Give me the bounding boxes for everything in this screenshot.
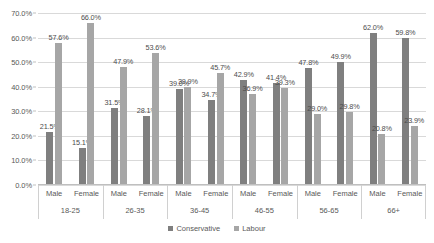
bar-value-label: 42.9% [234, 70, 254, 79]
gender-tick-label: Female [329, 185, 361, 202]
axis-group-separator [297, 202, 298, 219]
chart-legend: ConservativeLabour [0, 224, 434, 233]
bar-conservative-46-55-male [240, 80, 247, 185]
bar-labour-46-55-female [281, 88, 288, 185]
gender-tick-label: Female [394, 185, 426, 202]
y-tick-mark [33, 13, 36, 14]
legend-label: Labour [242, 224, 265, 233]
axis-group-separator [167, 202, 168, 219]
bar-labour-66-female [411, 126, 418, 185]
y-tick-label: 10.0% [11, 156, 32, 165]
bar-labour-66-male [378, 134, 385, 185]
bar-labour-56-65-male [314, 114, 321, 185]
y-tick-mark [33, 37, 36, 38]
bar-conservative-56-65-female [337, 62, 344, 185]
bar-conservative-46-55-female [273, 83, 280, 185]
y-tick-label: 40.0% [11, 82, 32, 91]
bar-labour-36-45-male [184, 87, 191, 185]
gender-tick-label: Female [200, 185, 232, 202]
bar-labour-36-45-female [217, 73, 224, 185]
gender-tick-label: Male [297, 185, 329, 202]
gender-tick-label: Female [70, 185, 102, 202]
y-axis: 0.0%10.0%20.0%30.0%40.0%50.0%60.0%70.0% [0, 13, 36, 185]
bar-conservative-18-25-male [46, 132, 53, 185]
axis-group-separator [232, 185, 233, 202]
grouped-bar-chart: 0.0%10.0%20.0%30.0%40.0%50.0%60.0%70.0% … [0, 0, 434, 243]
bar-value-label: 62.0% [363, 23, 383, 32]
bar-conservative-66-male [370, 33, 377, 185]
bar-labour-18-25-male [55, 43, 62, 185]
bar-labour-56-65-female [346, 112, 353, 185]
y-tick-mark [33, 62, 36, 63]
bar-labour-26-35-female [152, 53, 159, 185]
y-tick-label: 30.0% [11, 107, 32, 116]
gender-tick-label: Male [167, 185, 199, 202]
y-tick-mark [33, 185, 36, 186]
bar-value-label: 53.6% [146, 43, 166, 52]
axis-group-separator [297, 185, 298, 202]
bar-value-label: 59.8% [395, 28, 415, 37]
bar-conservative-36-45-female [208, 100, 215, 185]
bar-value-label: 57.6% [49, 33, 69, 42]
bar-value-label: 20.8% [372, 124, 392, 133]
bar-value-label: 39.3% [275, 78, 295, 87]
age-group-tick-label: 36-45 [167, 202, 232, 219]
bar-value-label: 47.9% [113, 57, 133, 66]
y-tick-mark [33, 86, 36, 87]
bar-value-label: 29.0% [307, 104, 327, 113]
legend-item-labour[interactable]: Labour [234, 224, 265, 233]
age-group-tick-label: 46-55 [232, 202, 297, 219]
axis-group-separator [103, 185, 104, 202]
legend-item-conservative[interactable]: Conservative [168, 224, 220, 233]
bar-conservative-26-35-male [111, 108, 118, 185]
y-tick-label: 50.0% [11, 58, 32, 67]
axis-group-separator [38, 202, 39, 219]
bar-labour-46-55-male [249, 94, 256, 185]
age-group-tick-label: 66+ [361, 202, 426, 219]
category-axis: MaleFemaleMaleFemaleMaleFemaleMaleFemale… [38, 185, 426, 219]
legend-label: Conservative [176, 224, 220, 233]
axis-group-separator [232, 202, 233, 219]
gender-tick-label: Male [361, 185, 393, 202]
gender-tick-label: Male [103, 185, 135, 202]
bar-conservative-36-45-male [176, 89, 183, 185]
legend-swatch-icon [168, 226, 173, 231]
plot-area: 21.5%57.6%15.1%66.0%31.5%47.9%28.1%53.6%… [38, 13, 426, 185]
bar-value-label: 47.8% [298, 58, 318, 67]
axis-group-separator [425, 202, 426, 219]
bar-value-label: 29.8% [340, 102, 360, 111]
bar-value-label: 45.7% [210, 63, 230, 72]
bar-value-label: 66.0% [81, 13, 101, 22]
age-group-tick-label: 18-25 [38, 202, 103, 219]
gender-tick-label: Male [38, 185, 70, 202]
axis-group-separator [167, 185, 168, 202]
y-tick-label: 70.0% [11, 9, 32, 18]
bar-value-label: 36.9% [243, 84, 263, 93]
axis-group-separator [425, 185, 426, 202]
bar-conservative-18-25-female [79, 148, 86, 185]
age-group-label-row: 18-2526-3536-4546-5556-6566+ [38, 202, 426, 219]
bar-conservative-26-35-female [143, 116, 150, 185]
y-tick-mark [33, 135, 36, 136]
axis-group-separator [38, 185, 39, 202]
bar-value-label: 39.9% [178, 77, 198, 86]
bar-conservative-56-65-male [305, 68, 312, 185]
gender-tick-label: Male [232, 185, 264, 202]
y-tick-label: 20.0% [11, 131, 32, 140]
y-tick-label: 60.0% [11, 33, 32, 42]
bars-layer: 21.5%57.6%15.1%66.0%31.5%47.9%28.1%53.6%… [38, 13, 426, 185]
y-tick-label: 0.0% [15, 181, 32, 190]
axis-group-separator [361, 185, 362, 202]
bar-conservative-66-female [402, 38, 409, 185]
gender-tick-label: Female [264, 185, 296, 202]
age-group-tick-label: 26-35 [103, 202, 168, 219]
axis-group-separator [103, 202, 104, 219]
legend-swatch-icon [234, 226, 239, 231]
gender-tick-label: Female [135, 185, 167, 202]
age-group-tick-label: 56-65 [297, 202, 362, 219]
axis-group-separator [361, 202, 362, 219]
gender-label-row: MaleFemaleMaleFemaleMaleFemaleMaleFemale… [38, 185, 426, 202]
y-tick-mark [33, 111, 36, 112]
bar-value-label: 23.9% [404, 116, 424, 125]
bar-labour-18-25-female [87, 23, 94, 185]
